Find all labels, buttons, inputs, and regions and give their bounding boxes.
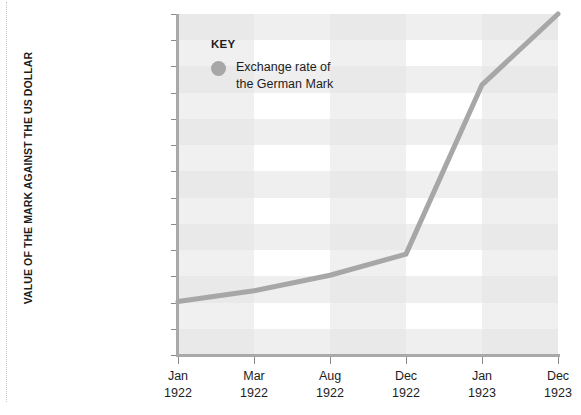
y-tick-mark [171, 250, 176, 251]
y-tick-mark [171, 329, 176, 330]
x-tick-label-year: 1923 [513, 385, 581, 403]
y-tick-mark [171, 303, 176, 304]
y-tick-mark [171, 145, 176, 146]
x-tick-label: Dec1923 [513, 368, 581, 404]
y-tick-mark [171, 171, 176, 172]
y-tick-mark [171, 40, 176, 41]
y-tick-mark [171, 224, 176, 225]
legend-label-line-2: the German Mark [236, 77, 333, 91]
x-tick-label-month: Dec [513, 368, 581, 386]
plot-area: 10,000,000,000,0001,000,000,000,000100,0… [178, 14, 558, 355]
legend-title: KEY [211, 38, 391, 50]
y-tick-mark [171, 276, 176, 277]
x-tick-mark [558, 357, 559, 364]
legend-entry-label: Exchange rate of the German Mark [236, 59, 333, 94]
y-tick-mark [171, 355, 176, 356]
y-tick-mark [171, 14, 176, 15]
chart-legend: KEY Exchange rate of the German Mark [211, 38, 391, 94]
x-tick-mark [482, 357, 483, 364]
y-tick-mark [171, 119, 176, 120]
x-tick-mark [406, 357, 407, 364]
legend-swatch-icon [211, 61, 226, 76]
y-tick-mark [171, 66, 176, 67]
x-tick-mark [330, 357, 331, 364]
left-dotted-rule [6, 2, 7, 402]
chart-figure: VALUE OF THE MARK AGAINST THE US DOLLAR … [0, 0, 581, 415]
y-tick-mark [171, 93, 176, 94]
x-tick-mark [254, 357, 255, 364]
y-axis-title: VALUE OF THE MARK AGAINST THE US DOLLAR [22, 8, 34, 348]
legend-label-line-1: Exchange rate of [236, 60, 331, 74]
y-tick-mark [171, 198, 176, 199]
x-tick-mark [178, 357, 179, 364]
legend-entry: Exchange rate of the German Mark [211, 59, 391, 94]
